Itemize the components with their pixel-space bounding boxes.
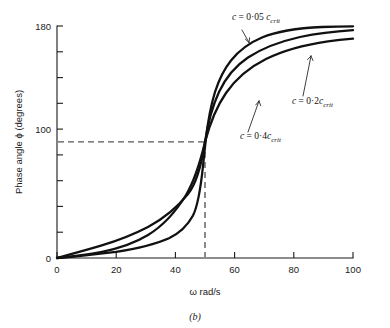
label-c04-sub: crit [271, 136, 282, 144]
label-c02: c = 0·2ccrit [292, 96, 334, 109]
leader-c005 [242, 30, 249, 43]
xtick-label-0: 0 [54, 264, 59, 275]
x-axis-title: ω rad/s [189, 286, 220, 297]
phase-angle-chart: 0 100 180 0 20 40 60 80 100 Phase angle … [0, 0, 390, 328]
label-c04: c = 0·4ccrit [240, 131, 282, 144]
ytick-label-0: 0 [46, 253, 51, 264]
leader-c04 [248, 101, 259, 132]
figure-panel: 0 100 180 0 20 40 60 80 100 Phase angle … [0, 0, 390, 328]
label-c02-eq: = 0·2 [296, 96, 319, 106]
xtick-label-100: 100 [345, 264, 361, 275]
y-axis-title: Phase angle ϕ (degrees) [13, 90, 24, 194]
ytick-label-180: 180 [35, 21, 51, 32]
xtick-label-80: 80 [289, 264, 300, 275]
label-c005: c = 0·05 ccrit [232, 12, 281, 25]
ytick-labels: 0 100 180 [35, 21, 51, 264]
leader-c02 [303, 56, 311, 96]
label-c005-sub: crit [270, 17, 281, 25]
xtick-label-20: 20 [111, 264, 122, 275]
xtick-label-60: 60 [229, 264, 240, 275]
ytick-label-100: 100 [35, 124, 51, 135]
label-c005-eq: = 0·05 [236, 12, 266, 22]
figure-caption: (b) [189, 311, 201, 323]
xtick-labels: 0 20 40 60 80 100 [54, 264, 361, 275]
xtick-label-40: 40 [170, 264, 181, 275]
label-c04-eq: = 0·4 [244, 131, 267, 141]
label-c02-sub: crit [323, 101, 334, 109]
